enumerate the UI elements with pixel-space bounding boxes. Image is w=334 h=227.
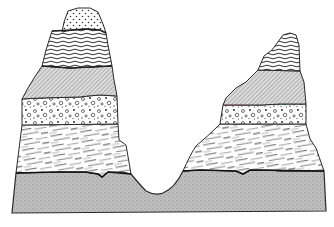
geological-cross-section [0, 0, 334, 227]
right-peak-hatched-layer [223, 70, 306, 105]
right-peak-shale-layer [183, 124, 324, 174]
left-peak-wavy-layer [42, 29, 112, 68]
right-peak-wavy-layer [258, 33, 300, 71]
left-peak-shale-layer [16, 124, 131, 177]
left-peak-conglomerate-layer [22, 95, 118, 125]
basement-layer [12, 170, 326, 213]
right-peak-conglomerate-layer [220, 104, 306, 124]
left-peak-hatched-layer [22, 66, 117, 99]
